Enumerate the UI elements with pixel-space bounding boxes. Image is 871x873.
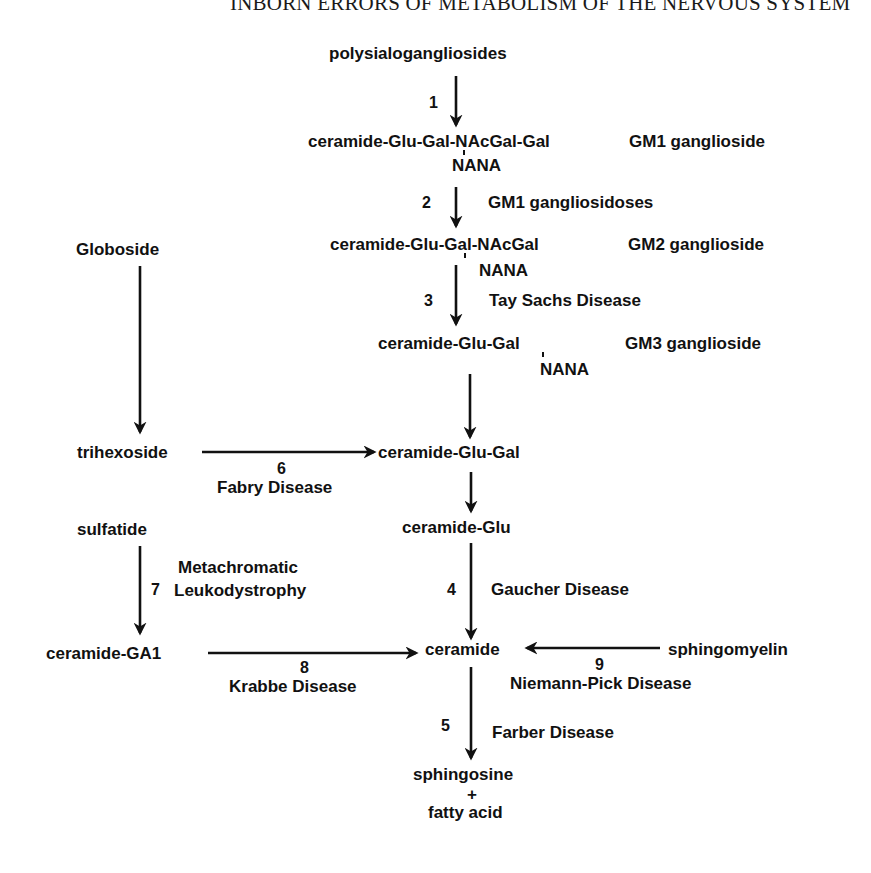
nana-link-gm2 xyxy=(464,253,466,258)
compound-sulfatide: sulfatide xyxy=(77,520,147,540)
compound-ceramide: ceramide xyxy=(425,640,500,660)
label-gm1-ganglioside: GM1 ganglioside xyxy=(629,132,765,152)
compound-gm1-structure: ceramide-Glu-Gal-NAcGal-Gal xyxy=(308,132,550,152)
compound-globoside: Globoside xyxy=(76,240,159,260)
disease-niemann-pick: Niemann-Pick Disease xyxy=(510,674,691,694)
compound-sphingosine: sphingosine xyxy=(413,765,513,785)
compound-gm1-nana: NANA xyxy=(452,156,501,176)
compound-polysialogangliosides: polysialogangliosides xyxy=(329,44,507,64)
disease-fabry: Fabry Disease xyxy=(217,478,332,498)
disease-farber: Farber Disease xyxy=(492,723,614,743)
step-number-3: 3 xyxy=(424,291,433,311)
step-number-9: 9 xyxy=(595,655,604,675)
disease-krabbe: Krabbe Disease xyxy=(229,677,357,697)
step-number-4: 4 xyxy=(447,580,456,600)
disease-tay-sachs: Tay Sachs Disease xyxy=(489,291,641,311)
step-number-8: 8 xyxy=(300,658,309,678)
compound-gm2-structure: ceramide-Glu-Gal-NAcGal xyxy=(330,235,539,255)
label-gm3-ganglioside: GM3 ganglioside xyxy=(625,334,761,354)
plus-sign: + xyxy=(467,785,477,805)
step-number-2: 2 xyxy=(422,193,431,213)
compound-sphingomyelin: sphingomyelin xyxy=(668,640,788,660)
compound-ceramide-glu: ceramide-Glu xyxy=(402,518,511,538)
compound-gm3-structure: ceramide-Glu-Gal xyxy=(378,334,520,354)
disease-gaucher: Gaucher Disease xyxy=(491,580,629,600)
nana-link-gm1 xyxy=(463,150,465,155)
compound-ceramide-glu-gal: ceramide-Glu-Gal xyxy=(378,443,520,463)
disease-metachromatic-line2: Leukodystrophy xyxy=(174,581,306,601)
step-number-7: 7 xyxy=(151,580,160,600)
disease-metachromatic-line1: Metachromatic xyxy=(178,558,298,578)
compound-ceramide-ga1: ceramide-GA1 xyxy=(46,644,161,664)
compound-trihexoside: trihexoside xyxy=(77,443,168,463)
step-number-6: 6 xyxy=(277,459,286,479)
nana-link-gm3 xyxy=(542,352,544,357)
pathway-arrows xyxy=(0,0,871,873)
step-number-1: 1 xyxy=(429,93,438,113)
step-number-5: 5 xyxy=(441,716,450,736)
disease-gm1-gangliosidoses: GM1 gangliosidoses xyxy=(488,193,653,213)
compound-fatty-acid: fatty acid xyxy=(428,803,503,823)
label-gm2-ganglioside: GM2 ganglioside xyxy=(628,235,764,255)
compound-gm2-nana: NANA xyxy=(479,261,528,281)
compound-gm3-nana: NANA xyxy=(540,360,589,380)
